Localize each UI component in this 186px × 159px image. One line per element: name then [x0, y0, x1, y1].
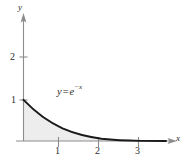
y-axis-label: y [18, 3, 22, 12]
x-tick-label-1: 1 [55, 146, 60, 156]
x-tick-label-2: 2 [95, 146, 100, 156]
shaded-region-under-curve [24, 100, 166, 141]
y-tick-label-2: 2 [10, 52, 15, 62]
x-axis-label: x [176, 134, 180, 143]
equation-lhs: y [57, 86, 62, 97]
curve-equation-label: y=e−x [57, 85, 82, 97]
equation-relation: = [62, 86, 70, 97]
x-tick-label-3: 3 [135, 146, 140, 156]
plot-canvas [0, 0, 186, 159]
exponential-decay-figure: 2 1 1 2 3 y x y=e−x [0, 0, 186, 159]
equation-exponent: −x [74, 83, 82, 91]
y-tick-label-1: 1 [11, 95, 16, 105]
